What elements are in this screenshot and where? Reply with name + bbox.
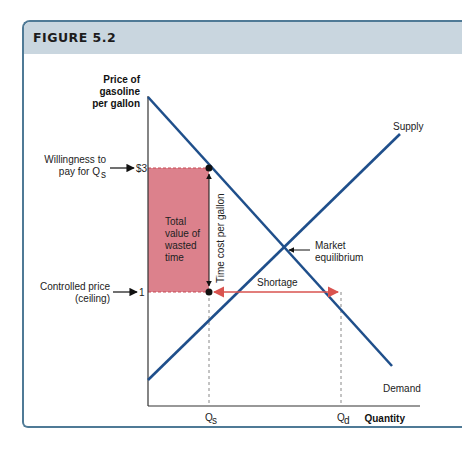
x-tick-qs-sub: s <box>212 415 217 426</box>
wasted-time-label-2: value of <box>165 228 200 239</box>
x-axis-label: Quantity <box>364 413 405 424</box>
willingness-label-sub: s <box>101 169 106 180</box>
willingness-point <box>206 165 213 172</box>
controlled-price-label-1: Controlled price <box>40 281 110 292</box>
x-tick-qd-sub: d <box>344 415 350 426</box>
controlled-price-label-2: (ceiling) <box>75 293 110 304</box>
y-axis-label-2: gasoline <box>99 86 140 97</box>
y-tick-1: 1 <box>139 287 145 298</box>
equilibrium-label-2: equilibrium <box>315 252 363 263</box>
equilibrium-label-1: Market <box>315 240 346 251</box>
y-axis-label-3: per gallon <box>92 98 140 109</box>
wasted-time-label-1: Total <box>165 216 186 227</box>
wasted-time-label-3: wasted <box>164 240 197 251</box>
ceiling-supply-point <box>206 289 213 296</box>
wasted-time-label-4: time <box>165 252 184 263</box>
y-tick-3: $3 <box>136 163 148 174</box>
y-axis-label-1: Price of <box>103 74 140 85</box>
willingness-label-2: pay for Q <box>59 166 100 177</box>
shortage-label: Shortage <box>257 277 298 288</box>
time-cost-label: Time cost per gallon <box>215 193 226 283</box>
supply-label: Supply <box>393 121 424 132</box>
willingness-label-1: Willingness to <box>44 154 106 165</box>
demand-label: Demand <box>383 383 421 394</box>
